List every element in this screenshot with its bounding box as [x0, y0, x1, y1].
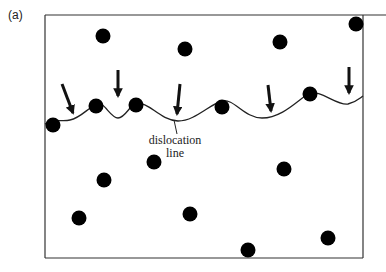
precipitate-particle	[72, 211, 87, 226]
label-line-2: line	[140, 147, 210, 160]
precipitate-particle	[303, 87, 318, 102]
precipitate-particle	[241, 243, 256, 258]
precipitate-particle	[273, 35, 288, 50]
precipitate-particle	[46, 118, 61, 133]
precipitate-particle	[96, 29, 111, 44]
force-arrow-icon	[62, 84, 73, 113]
precipitate-particle	[178, 42, 193, 57]
panel-label: (a)	[8, 8, 23, 22]
precipitate-particle	[277, 162, 292, 177]
frame	[45, 15, 386, 258]
precipitate-particle	[349, 17, 364, 32]
precipitate-particle	[89, 99, 104, 114]
precipitate-particle	[321, 231, 336, 246]
precipitate-particle	[129, 98, 144, 113]
precipitate-particle	[97, 173, 112, 188]
force-arrow-icon	[268, 85, 271, 111]
dislocation-line-label: dislocation line	[140, 134, 210, 160]
precipitate-particle	[183, 207, 198, 222]
callout-leader	[174, 120, 177, 134]
force-arrow-icon	[177, 84, 180, 114]
precipitate-particle	[215, 100, 230, 115]
